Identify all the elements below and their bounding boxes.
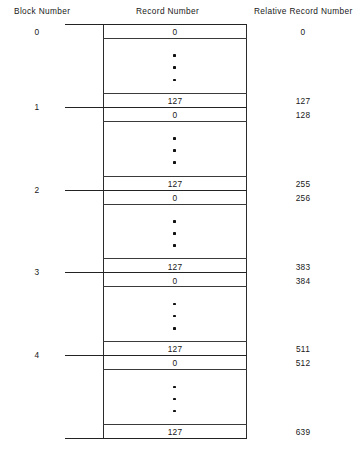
record-number-first: 0 — [103, 193, 247, 203]
record-number-last: 127 — [103, 179, 247, 189]
relative-record-number-last: 511 — [272, 344, 334, 354]
ellipsis-dot — [173, 220, 176, 223]
ellipsis-dot — [173, 161, 176, 164]
record-row-separator — [103, 176, 247, 177]
record-row-separator — [103, 121, 247, 122]
relative-record-number-last: 255 — [272, 179, 334, 189]
block-number-label: 4 — [14, 350, 60, 360]
block-boundary-line — [65, 355, 247, 356]
block-number-label: 3 — [14, 267, 60, 277]
ellipsis-dot — [173, 149, 176, 152]
block-boundary-line — [65, 107, 247, 108]
column-header-block-number: Block Number — [14, 6, 70, 16]
column-header-relative-record-number: Relative Record Number — [254, 6, 353, 16]
record-row-separator — [103, 204, 247, 205]
block-boundary-line — [65, 190, 247, 191]
record-row-separator — [103, 258, 247, 259]
record-number-first: 0 — [103, 276, 247, 286]
block-number-label: 0 — [14, 27, 60, 37]
record-row-separator — [103, 341, 247, 342]
block-number-label: 1 — [14, 102, 60, 112]
record-box — [103, 24, 247, 438]
relative-record-number-last: 639 — [272, 427, 334, 437]
record-row-separator — [103, 286, 247, 287]
relative-record-number-first: 0 — [272, 27, 334, 37]
record-number-last: 127 — [103, 344, 247, 354]
ellipsis-dot — [173, 327, 176, 330]
record-row-separator — [103, 93, 247, 94]
relative-record-number-first: 128 — [272, 110, 334, 120]
record-row-separator — [103, 424, 247, 425]
block-boundary-line — [65, 24, 247, 25]
ellipsis-dot — [173, 79, 176, 82]
block-boundary-line — [65, 272, 247, 273]
ellipsis-dot — [173, 232, 176, 235]
record-number-first: 0 — [103, 110, 247, 120]
block-boundary-line — [65, 438, 247, 439]
block-number-label: 2 — [14, 185, 60, 195]
record-number-last: 127 — [103, 262, 247, 272]
record-number-first: 0 — [103, 27, 247, 37]
record-number-last: 127 — [103, 427, 247, 437]
record-number-last: 127 — [103, 96, 247, 106]
ellipsis-dot — [173, 54, 176, 57]
relative-record-number-first: 384 — [272, 276, 334, 286]
column-header-record-number: Record Number — [136, 6, 199, 16]
ellipsis-dot — [173, 410, 176, 413]
relative-record-number-first: 256 — [272, 193, 334, 203]
ellipsis-dot — [173, 244, 176, 247]
record-number-first: 0 — [103, 358, 247, 368]
relative-record-number-last: 127 — [272, 96, 334, 106]
relative-record-number-first: 512 — [272, 358, 334, 368]
ellipsis-dot — [173, 66, 176, 69]
record-row-separator — [103, 38, 247, 39]
ellipsis-dot — [173, 137, 176, 140]
relative-record-number-last: 383 — [272, 262, 334, 272]
record-row-separator — [103, 369, 247, 370]
